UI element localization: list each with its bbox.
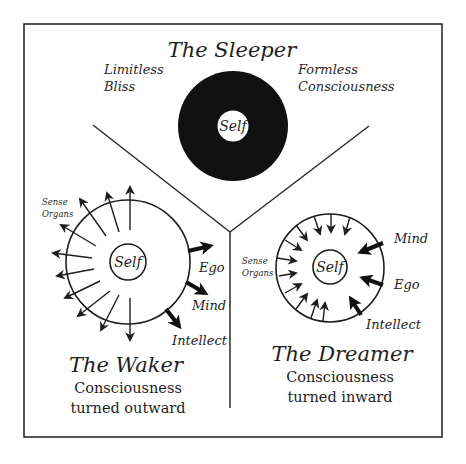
dreamer-self-label: Self [316, 259, 346, 275]
sleeper-title: The Sleeper [168, 38, 298, 62]
mind-arrow-icon [186, 282, 205, 293]
ego-arrow-icon [363, 278, 383, 285]
sleeper-left-note-line1: Limitless [103, 62, 164, 77]
waker-sense-label-line1: Sense [42, 197, 68, 207]
dreamer-ego-label: Ego [393, 277, 420, 292]
waker-title: The Waker [69, 353, 185, 377]
sleeper-right-note-line1: Formless [297, 62, 358, 77]
waker-faculty-arrows [166, 246, 210, 326]
dreamer-title: The Dreamer [272, 342, 415, 366]
inward-arrow-icon [277, 258, 296, 261]
sleeper-section: The Sleeper Limitless Bliss Formless Con… [103, 38, 395, 181]
outward-arrow-icon [107, 193, 119, 232]
sleeper-self-label: Self [219, 118, 249, 134]
waker-intellect-label: Intellect [171, 333, 228, 348]
waker-section: Self Sense Organs Ego Mind Intellect The… [42, 187, 228, 416]
inward-arrow-icon [323, 303, 325, 321]
three-states-diagram: The Sleeper Limitless Bliss Formless Con… [0, 0, 466, 464]
dreamer-sense-label-line1: Sense [242, 256, 268, 266]
dreamer-section: Self Sense Organs Mind Ego Intellect The… [242, 214, 428, 405]
dreamer-caption-line1: Consciousness [286, 369, 394, 385]
outward-arrow-icon [53, 253, 92, 258]
waker-caption-line2: turned outward [70, 400, 185, 416]
waker-mind-label: Mind [191, 298, 226, 313]
dreamer-faculty-arrows [351, 243, 383, 315]
waker-caption-line1: Consciousness [74, 380, 182, 396]
waker-self-label: Self [114, 254, 144, 270]
inward-arrow-icon [296, 294, 307, 309]
outward-arrow-icon [57, 269, 94, 276]
inward-arrow-icon [314, 216, 320, 234]
inward-arrow-icon [296, 225, 307, 240]
outward-arrow-icon [101, 295, 119, 330]
inward-arrow-icon [345, 217, 350, 234]
sleeper-left-note-line2: Bliss [103, 79, 136, 94]
dreamer-caption-line2: turned inward [287, 389, 392, 405]
dreamer-intellect-label: Intellect [365, 317, 422, 332]
inward-arrow-icon [311, 300, 317, 318]
dreamer-mind-label: Mind [393, 231, 428, 246]
sleeper-right-note-line2: Consciousness [298, 79, 395, 94]
ego-arrow-icon [188, 246, 210, 251]
waker-sense-label-line2: Organs [42, 209, 74, 219]
outward-arrow-icon [61, 225, 96, 246]
waker-ego-label: Ego [198, 260, 225, 275]
inward-arrow-icon [285, 240, 301, 250]
dreamer-sense-label-line2: Organs [242, 268, 274, 278]
intellect-arrow-icon [351, 299, 361, 315]
inward-arrow-icon [285, 284, 301, 293]
inward-arrow-icon [279, 273, 296, 276]
intellect-arrow-icon [166, 309, 179, 326]
